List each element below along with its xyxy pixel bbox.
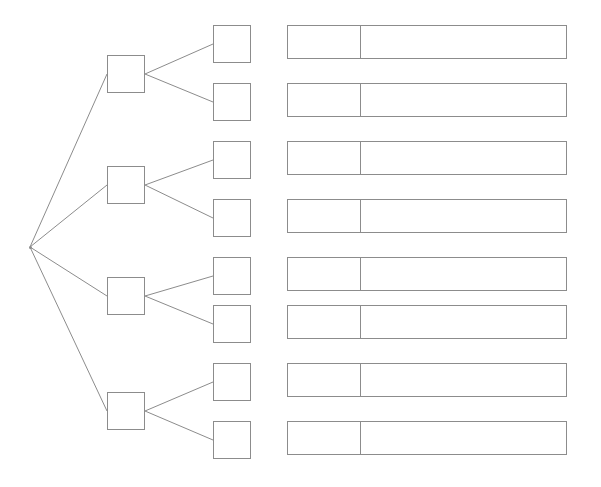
root-vertex[interactable]: [29, 246, 32, 249]
bar-row[interactable]: [287, 141, 567, 175]
bar-cell-left[interactable]: [288, 258, 361, 290]
level2-node-box[interactable]: [213, 257, 251, 295]
edge-layer: [0, 0, 601, 487]
tree-edge: [145, 160, 213, 185]
level2-node-box[interactable]: [213, 25, 251, 63]
level1-node-box[interactable]: [107, 166, 145, 204]
bar-row[interactable]: [287, 199, 567, 233]
tree-edge: [30, 247, 107, 411]
bar-cell-right[interactable]: [361, 258, 566, 290]
bar-row[interactable]: [287, 421, 567, 455]
tree-edge: [145, 74, 213, 102]
tree-edge: [30, 74, 107, 247]
bar-cell-left[interactable]: [288, 364, 361, 396]
diagram-canvas: [0, 0, 601, 487]
tree-edge: [145, 185, 213, 218]
tree-edge: [30, 185, 107, 247]
bar-cell-right[interactable]: [361, 200, 566, 232]
level2-node-box[interactable]: [213, 83, 251, 121]
bar-cell-left[interactable]: [288, 422, 361, 454]
bar-row[interactable]: [287, 305, 567, 339]
bar-cell-left[interactable]: [288, 200, 361, 232]
level2-node-box[interactable]: [213, 363, 251, 401]
bar-row[interactable]: [287, 25, 567, 59]
bar-cell-left[interactable]: [288, 84, 361, 116]
tree-edge: [145, 276, 213, 296]
bar-row[interactable]: [287, 363, 567, 397]
tree-edge: [145, 44, 213, 74]
level2-node-box[interactable]: [213, 305, 251, 343]
bar-cell-right[interactable]: [361, 26, 566, 58]
level2-node-box[interactable]: [213, 141, 251, 179]
level1-node-box[interactable]: [107, 392, 145, 430]
level2-node-box[interactable]: [213, 199, 251, 237]
bar-row[interactable]: [287, 257, 567, 291]
bar-cell-right[interactable]: [361, 84, 566, 116]
level2-node-box[interactable]: [213, 421, 251, 459]
tree-edge: [145, 296, 213, 324]
tree-edge: [145, 411, 213, 440]
bar-cell-left[interactable]: [288, 142, 361, 174]
level1-node-box[interactable]: [107, 277, 145, 315]
bar-cell-right[interactable]: [361, 364, 566, 396]
bar-cell-right[interactable]: [361, 422, 566, 454]
bar-cell-right[interactable]: [361, 142, 566, 174]
tree-edge: [30, 247, 107, 296]
bar-cell-left[interactable]: [288, 306, 361, 338]
tree-edge: [145, 382, 213, 411]
bar-row[interactable]: [287, 83, 567, 117]
bar-cell-left[interactable]: [288, 26, 361, 58]
level1-node-box[interactable]: [107, 55, 145, 93]
bar-cell-right[interactable]: [361, 306, 566, 338]
